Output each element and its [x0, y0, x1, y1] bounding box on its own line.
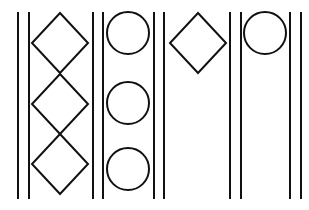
diamond-shape — [32, 13, 88, 73]
diamond-shape — [32, 134, 88, 194]
diamond-shape — [170, 13, 226, 73]
pattern-diagram — [0, 0, 309, 210]
circle-shape — [107, 82, 149, 124]
circle-shape — [244, 12, 286, 54]
diamond-shapes — [32, 13, 226, 194]
circle-shape — [107, 12, 149, 54]
diamond-shape — [32, 74, 88, 134]
circle-shape — [107, 148, 149, 190]
vertical-divider-lines — [18, 12, 301, 199]
circle-shapes — [107, 12, 286, 190]
